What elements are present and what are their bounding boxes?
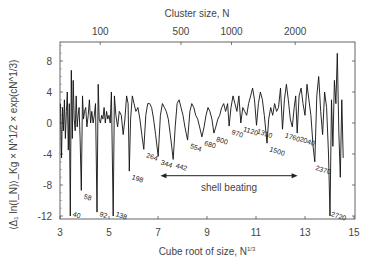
x-tick-label: 7 bbox=[155, 227, 161, 238]
y-tick-label: -4 bbox=[43, 149, 52, 160]
dip-label: 442 bbox=[175, 162, 188, 172]
dip-label: 40 bbox=[72, 210, 82, 219]
arrow-head-left-icon bbox=[160, 173, 166, 178]
dip-label: 264 bbox=[145, 152, 158, 162]
x-tick-label: 11 bbox=[251, 227, 262, 238]
arrow-head-right-icon bbox=[292, 173, 298, 178]
dip-label: 92 bbox=[99, 210, 109, 219]
x-axis-title-main: Cube root of size, N bbox=[159, 246, 247, 257]
x-tick-label: 13 bbox=[299, 227, 311, 238]
y-tick-label: 0 bbox=[46, 118, 52, 129]
y-tick-label: -8 bbox=[43, 180, 52, 191]
chart: -12-8-4048 3579111315 10050010002000 405… bbox=[0, 0, 369, 264]
x-tick-label: 3 bbox=[57, 227, 63, 238]
top-tick-label: 500 bbox=[173, 26, 190, 37]
x-axis-title-sup: 1/3 bbox=[247, 246, 256, 252]
x-tick-label: 15 bbox=[348, 227, 360, 238]
dip-label: 554 bbox=[189, 142, 202, 152]
top-axis-title: Cluster size, N bbox=[164, 8, 229, 19]
dip-label: 1310 bbox=[256, 128, 273, 140]
dip-label: 680 bbox=[204, 139, 217, 149]
top-tick-label: 100 bbox=[92, 26, 109, 37]
dip-label: 2720 bbox=[330, 210, 347, 222]
x-axis-title: Cube root of size, N1/3 bbox=[159, 246, 256, 257]
y-tick-label: 4 bbox=[46, 87, 52, 98]
top-tick-label: 1000 bbox=[220, 26, 243, 37]
dip-label: 58 bbox=[83, 193, 93, 202]
top-tick-label: 2000 bbox=[284, 26, 307, 37]
y-tick-label: 8 bbox=[46, 56, 52, 67]
x-tick-label: 5 bbox=[106, 227, 112, 238]
dip-label: 1500 bbox=[269, 145, 286, 157]
y-tick-label: -12 bbox=[38, 211, 53, 222]
y-axis-title: ⟨Δ₁ ln(I_N)⟩_Kg × N^1/2 × exp(cN^1/3) bbox=[8, 60, 19, 231]
dip-label: 198 bbox=[131, 173, 144, 183]
annotation-label: shell beating bbox=[201, 182, 257, 193]
dip-label: 2370 bbox=[315, 164, 332, 176]
shell-beating-annotation: shell beating bbox=[160, 173, 297, 193]
dip-label: 2040 bbox=[299, 135, 316, 147]
dip-label: 800 bbox=[216, 135, 229, 145]
dip-label: 344 bbox=[160, 159, 173, 169]
x-tick-label: 9 bbox=[204, 227, 210, 238]
